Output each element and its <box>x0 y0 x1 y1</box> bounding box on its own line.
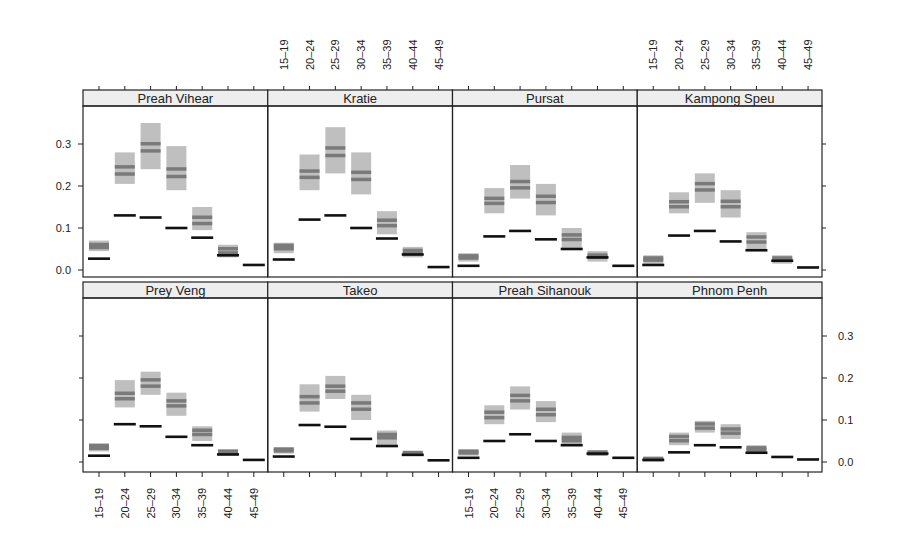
panel-phnom-penh: Phnom Penh <box>637 282 822 477</box>
point-marker <box>561 248 583 251</box>
interval-inner-line <box>351 401 371 405</box>
point-marker <box>217 453 239 456</box>
interval-inner-line <box>377 224 397 228</box>
point-marker <box>165 436 187 439</box>
interval-inner-line <box>325 384 345 388</box>
trellis-chart: Preah VihearKratie15–1920–2425–2930–3435… <box>0 0 905 557</box>
interval-inner-line <box>325 146 345 150</box>
interval-inner-line <box>300 169 320 173</box>
panel-title: Takeo <box>343 283 378 298</box>
x-tick-label: 25–29 <box>329 39 341 70</box>
panel-frame <box>637 298 822 472</box>
panel-title: Kampong Speu <box>685 91 775 106</box>
point-marker <box>771 259 793 262</box>
interval-inner-line <box>695 426 715 430</box>
interval-inner-line <box>484 202 504 206</box>
interval-inner-line <box>721 200 741 204</box>
x-tick-label: 15–19 <box>647 39 659 70</box>
interval-inner-line <box>274 449 294 453</box>
x-tick-label: 25–29 <box>699 39 711 70</box>
interval-inner-line <box>166 399 186 403</box>
interval-inner-line <box>274 244 294 248</box>
panel-kampong-speu: Kampong Speu15–1920–2425–2930–3435–3940–… <box>637 39 822 277</box>
interval-inner-line <box>484 416 504 420</box>
y-tick-label-left: 0.0 <box>56 264 71 276</box>
point-marker <box>535 440 557 443</box>
x-tick-label: 20–24 <box>673 39 685 70</box>
interval-inner-line <box>721 427 741 431</box>
point-marker <box>458 265 480 268</box>
interval-inner-line <box>166 167 186 171</box>
interval-inner-line <box>377 436 397 440</box>
panel-frame <box>83 106 268 277</box>
point-marker <box>720 240 742 243</box>
interval-band <box>536 401 556 422</box>
interval-inner-line <box>510 186 530 190</box>
interval-band <box>669 433 689 446</box>
interval-inner-line <box>325 154 345 158</box>
interval-inner-line <box>166 404 186 408</box>
interval-band <box>721 190 741 217</box>
interval-inner-line <box>536 408 556 412</box>
interval-inner-line <box>536 413 556 417</box>
interval-inner-line <box>746 235 766 239</box>
point-marker <box>745 451 767 454</box>
panel-prey-veng: Prey Veng15–1920–2425–2930–3435–3940–444… <box>83 282 268 519</box>
x-tick-label: 30–34 <box>170 488 182 519</box>
point-marker <box>587 452 609 455</box>
x-tick-label: 45–49 <box>802 39 814 70</box>
interval-inner-line <box>115 397 135 401</box>
interval-inner-line <box>510 399 530 403</box>
x-tick-label: 40–44 <box>222 488 234 519</box>
interval-inner-line <box>141 378 161 382</box>
panel-takeo: Takeo <box>268 282 453 477</box>
interval-inner-line <box>510 180 530 184</box>
chart-canvas: Preah VihearKratie15–1920–2425–2930–3435… <box>0 0 905 557</box>
point-marker <box>350 438 372 441</box>
x-tick-label: 20–24 <box>304 39 316 70</box>
point-marker <box>191 444 213 447</box>
interval-inner-line <box>484 197 504 201</box>
interval-band <box>484 405 504 424</box>
interval-inner-line <box>300 176 320 180</box>
point-marker <box>458 457 480 460</box>
y-tick-label-left: 0.3 <box>56 138 71 150</box>
x-tick-label: 45–49 <box>248 488 260 519</box>
point-marker <box>165 227 187 230</box>
x-tick-label: 45–49 <box>617 488 629 519</box>
interval-inner-line <box>351 171 371 175</box>
point-marker <box>114 423 136 426</box>
point-marker <box>273 455 295 458</box>
point-marker <box>797 458 819 461</box>
point-marker <box>797 266 819 269</box>
interval-inner-line <box>192 216 212 220</box>
point-marker <box>428 459 450 462</box>
interval-inner-line <box>218 247 238 251</box>
interval-inner-line <box>115 172 135 176</box>
interval-inner-line <box>484 410 504 414</box>
point-marker <box>428 266 450 269</box>
x-tick-label: 25–29 <box>514 488 526 519</box>
panel-frame <box>453 298 638 472</box>
interval-inner-line <box>746 448 766 452</box>
point-marker <box>350 227 372 230</box>
interval-inner-line <box>562 439 582 443</box>
interval-band <box>484 188 504 213</box>
interval-inner-line <box>746 240 766 244</box>
point-marker <box>140 216 162 219</box>
interval-inner-line <box>695 182 715 186</box>
point-marker <box>299 218 321 221</box>
point-marker <box>217 254 239 257</box>
interval-inner-line <box>141 142 161 146</box>
interval-inner-line <box>325 389 345 393</box>
interval-inner-line <box>562 436 582 440</box>
interval-band <box>510 386 530 409</box>
panel-title: Preah Sihanouk <box>499 283 592 298</box>
x-tick-label: 35–39 <box>381 39 393 70</box>
x-tick-label: 25–29 <box>145 488 157 519</box>
point-marker <box>509 433 531 436</box>
interval-inner-line <box>141 384 161 388</box>
interval-inner-line <box>300 401 320 405</box>
interval-inner-line <box>510 394 530 398</box>
interval-inner-line <box>89 246 109 250</box>
